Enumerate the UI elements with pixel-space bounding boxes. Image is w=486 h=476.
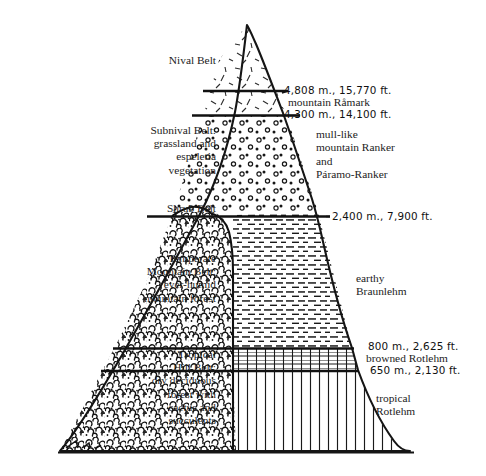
elevation-label-800: 800 m., 2,625 ft.	[368, 340, 486, 353]
label-soil-tropical-rotlehm: tropical Rotlehm	[376, 392, 486, 419]
braunlehm-fill	[225, 208, 365, 353]
elevation-label-4300: 4,300 m., 14,100 ft.	[284, 108, 480, 121]
label-soil-ranker: mull-like mountain Ranker and Páramo-Ran…	[316, 128, 482, 182]
mountain-profile-diagram: Nival Belt Subnival Belt: grassland and …	[0, 0, 486, 476]
elevation-label-650: 650 m., 2,130 ft.	[370, 364, 486, 377]
label-nival-belt: Nival Belt	[104, 54, 216, 67]
label-temperate-mountain-belt: Temperate Mountain Belt: ever-humid moun…	[30, 252, 216, 305]
label-shrub-belt: Shrub Belt	[92, 202, 216, 215]
elevation-label-2400: 2,400 m., 7,900 ft.	[332, 210, 482, 223]
label-subnival-belt: Subnival Belt: grassland and espeletia v…	[84, 124, 216, 177]
label-tropical-hill-belt: Tropical Hill Belt: dry deciduous forest…	[28, 348, 216, 427]
label-soil-braunlehm: earthy Braunlehm	[356, 272, 482, 299]
elevation-label-4808: 4,808 m., 15,770 ft.	[284, 84, 480, 97]
